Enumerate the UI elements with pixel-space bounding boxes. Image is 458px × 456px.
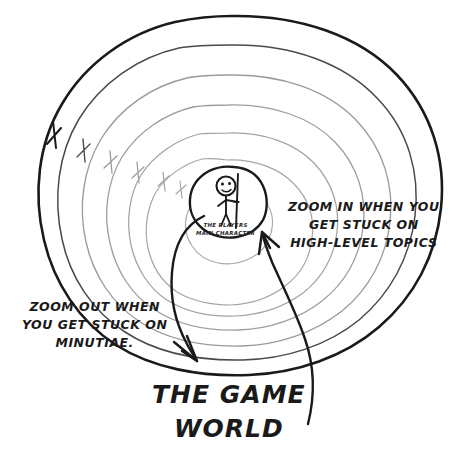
zoom-out-line-3: MINUTIAE.	[22, 334, 167, 352]
tick-ring-3	[158, 172, 169, 191]
zoom-in-annotation: ZOOM IN WHEN YOU GET STUCK ON HIGH-LEVEL…	[288, 198, 440, 251]
zoom-in-arrow-head	[259, 232, 279, 254]
zoom-in-line-2: GET STUCK ON	[288, 216, 440, 234]
player-character-caption: THE PLAYERS MAIN CHARACTER	[196, 221, 255, 237]
player-caption-line-2: MAIN CHARACTER	[196, 229, 255, 237]
zoom-out-line-2: YOU GET STUCK ON	[22, 316, 167, 334]
character-head	[217, 177, 236, 196]
ring-tick-marks	[47, 121, 186, 198]
game-world-title-line-2: WORLD	[152, 412, 306, 446]
zoom-in-line-3: HIGH-LEVEL TOPICS	[288, 234, 440, 252]
player-caption-line-1: THE PLAYERS	[196, 221, 255, 229]
game-world-title: THE GAME WORLD	[152, 378, 306, 446]
game-world-title-line-1: THE GAME	[152, 378, 306, 412]
zoom-in-line-1: ZOOM IN WHEN YOU	[288, 198, 440, 216]
zoom-out-line-1: ZOOM OUT WHEN	[22, 298, 167, 316]
game-world-zoom-diagram: ZOOM IN WHEN YOU GET STUCK ON HIGH-LEVEL…	[0, 0, 458, 456]
character-eye-left	[221, 183, 224, 186]
tick-ring-2	[176, 181, 186, 198]
tick-ring-6	[77, 139, 90, 162]
zoom-out-annotation: ZOOM OUT WHEN YOU GET STUCK ON MINUTIAE.	[22, 298, 167, 351]
character-eye-right	[228, 182, 231, 185]
